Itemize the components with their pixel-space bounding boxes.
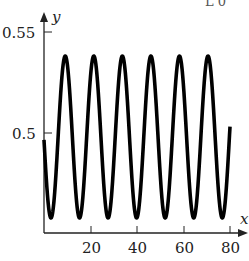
x-tick-label-80: 80	[221, 239, 240, 257]
x-axis-arrow-icon	[238, 229, 248, 237]
y-axis-arrow-icon	[40, 12, 48, 22]
cropped-header-text: L 0	[205, 0, 226, 9]
x-axis-label: x	[240, 210, 249, 228]
sine-curve	[44, 56, 230, 218]
chart: L 0 0.55 0.5 20 40 60 80 y x	[0, 0, 249, 261]
y-tick-label-0.55: 0.55	[2, 24, 35, 42]
x-tick-label-60: 60	[175, 239, 194, 257]
y-axis-label: y	[51, 8, 61, 26]
x-tick-label-20: 20	[82, 239, 101, 257]
y-tick-label-0.5: 0.5	[12, 125, 36, 143]
x-tick-label-40: 40	[128, 239, 147, 257]
